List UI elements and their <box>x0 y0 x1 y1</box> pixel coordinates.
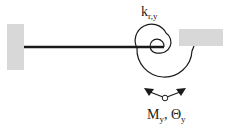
theta-symbol: Θ <box>171 107 181 122</box>
moment-arrows-icon <box>144 88 186 101</box>
k-symbol: k <box>141 4 148 19</box>
separator: , <box>164 107 171 122</box>
k-subscript: r,y <box>148 11 157 21</box>
diagram-canvas: kr,y My, Θy <box>0 0 234 131</box>
theta-subscript: y <box>181 114 186 124</box>
spring-stiffness-label: kr,y <box>141 5 157 21</box>
left-support <box>7 24 24 70</box>
right-support <box>179 29 223 46</box>
moment-rotation-label: My, Θy <box>147 108 186 124</box>
diagram-graphics <box>0 0 234 131</box>
moment-symbol: M <box>147 107 159 122</box>
